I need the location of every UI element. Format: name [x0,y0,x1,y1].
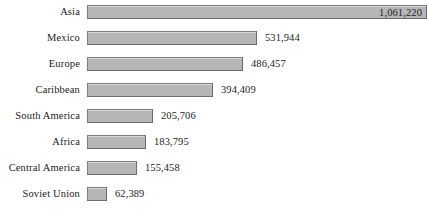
bar-central-america[interactable] [87,161,137,175]
bar-europe[interactable] [87,57,243,71]
category-label-caribbean: Caribbean [0,82,80,98]
chart-row: Central America 155,458 [0,160,429,176]
chart-row: Africa 183,795 [0,134,429,150]
bar-track-soviet-union: 62,389 [87,187,107,201]
value-label-mexico: 531,944 [265,31,300,45]
chart-row: Asia 1,061,220 [0,4,429,20]
category-label-africa: Africa [0,134,80,150]
bar-track-caribbean: 394,409 [87,83,213,97]
bar-caribbean[interactable] [87,83,213,97]
value-label-south-america: 205,706 [161,109,196,123]
chart-row: Soviet Union 62,389 [0,186,429,202]
category-label-central-america: Central America [0,160,80,176]
bar-track-central-america: 155,458 [87,161,137,175]
bar-south-america[interactable] [87,109,153,123]
chart-row: Europe 486,457 [0,56,429,72]
category-label-europe: Europe [0,56,80,72]
bar-track-europe: 486,457 [87,57,243,71]
value-label-asia: 1,061,220 [379,6,422,20]
chart-row: Mexico 531,944 [0,30,429,46]
bar-track-africa: 183,795 [87,135,146,149]
value-label-africa: 183,795 [154,135,189,149]
bar-soviet-union[interactable] [87,187,107,201]
category-label-mexico: Mexico [0,30,80,46]
value-label-central-america: 155,458 [145,161,180,175]
bar-track-south-america: 205,706 [87,109,153,123]
category-label-south-america: South America [0,108,80,124]
bar-asia[interactable]: 1,061,220 [87,5,427,19]
chart-row: Caribbean 394,409 [0,82,429,98]
value-label-caribbean: 394,409 [221,83,256,97]
value-label-soviet-union: 62,389 [115,187,144,201]
bar-track-mexico: 531,944 [87,31,257,45]
bar-track-asia: 1,061,220 [87,5,427,19]
horizontal-bar-chart: Asia 1,061,220 Mexico 531,944 Europe 486… [0,0,429,214]
chart-row: South America 205,706 [0,108,429,124]
bar-mexico[interactable] [87,31,257,45]
category-label-asia: Asia [0,4,80,20]
value-label-europe: 486,457 [251,57,286,71]
category-label-soviet-union: Soviet Union [0,186,80,202]
bar-africa[interactable] [87,135,146,149]
